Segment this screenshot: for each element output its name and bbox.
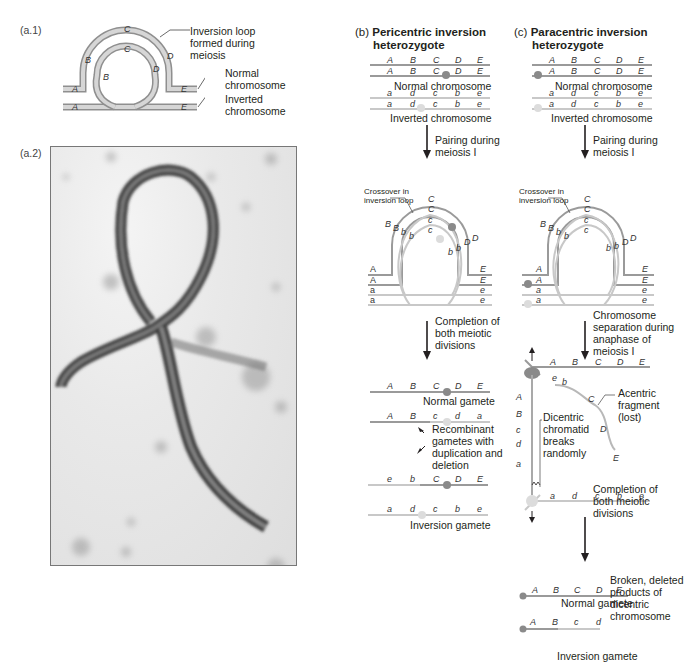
svg-text:D: D: [455, 66, 462, 76]
svg-text:e: e: [552, 373, 557, 383]
panel-b-letter: (b): [355, 26, 369, 38]
svg-text:a: a: [549, 99, 554, 109]
svg-text:E: E: [642, 275, 649, 285]
svg-text:b: b: [616, 99, 621, 109]
svg-text:C: C: [433, 381, 440, 391]
svg-text:e: e: [477, 504, 482, 514]
svg-text:C: C: [433, 66, 440, 76]
svg-text:d: d: [572, 491, 578, 501]
svg-text:A: A: [386, 411, 393, 421]
svg-text:b: b: [606, 243, 611, 253]
svg-text:E: E: [181, 102, 188, 112]
svg-text:d: d: [571, 99, 577, 109]
svg-text:B: B: [548, 223, 554, 233]
panel-b-title-line2: heterozygote: [355, 39, 445, 51]
panel-b-normal-chromosome-caption: Normal chromosome: [394, 80, 491, 92]
normal-chromosome-callout: Normal chromosome: [225, 67, 305, 91]
svg-text:c: c: [574, 617, 579, 627]
svg-text:a: a: [536, 285, 541, 295]
svg-text:e: e: [387, 474, 392, 484]
svg-text:b: b: [410, 474, 415, 484]
panel-b-title: (b) Pericentric inversion heterozygote: [355, 26, 486, 52]
svg-text:a: a: [477, 411, 482, 421]
svg-text:B: B: [552, 617, 558, 627]
svg-text:A: A: [370, 264, 376, 274]
svg-text:b: b: [556, 227, 561, 237]
svg-text:E: E: [480, 264, 487, 274]
svg-text:A: A: [386, 66, 393, 76]
svg-text:A: A: [549, 357, 556, 367]
panel-c-title-line2: heterozygote: [514, 39, 604, 51]
panel-c-title-line1: Paracentric inversion: [531, 26, 648, 38]
svg-text:c: c: [584, 225, 589, 235]
svg-text:C: C: [594, 66, 601, 76]
svg-text:A: A: [548, 55, 555, 65]
svg-text:D: D: [455, 474, 462, 484]
svg-text:e: e: [480, 285, 485, 295]
svg-text:B: B: [571, 55, 577, 65]
svg-text:b: b: [401, 227, 406, 237]
svg-text:d: d: [516, 439, 522, 449]
svg-text:E: E: [477, 66, 484, 76]
svg-text:c: c: [594, 99, 599, 109]
svg-text:a: a: [549, 88, 554, 98]
panel-b-step1: Pairing during meiosis I: [435, 134, 505, 158]
svg-text:C: C: [584, 194, 591, 204]
panel-c-acentric-label: Acentric fragment (lost): [618, 387, 678, 423]
panel-c-normal-chromosome-caption: Normal chromosome: [555, 80, 652, 92]
svg-text:b: b: [456, 243, 461, 253]
panel-b-crossover-label: Crossover in inversion loop: [364, 187, 424, 205]
svg-text:D: D: [153, 64, 160, 74]
svg-text:E: E: [638, 66, 645, 76]
panel-c-dicentric-label: Dicentric chromatid breaks randomly: [543, 411, 605, 459]
panel-c-step3: Completion of both meiotic divisions: [593, 483, 663, 519]
panel-b-step2: Completion of both meiotic divisions: [435, 315, 505, 351]
svg-text:B: B: [540, 219, 546, 229]
svg-text:E: E: [642, 264, 649, 274]
svg-text:d: d: [410, 504, 416, 514]
svg-text:d: d: [410, 99, 416, 109]
svg-text:B: B: [516, 409, 522, 419]
svg-text:E: E: [613, 453, 620, 463]
svg-text:C: C: [124, 25, 131, 34]
svg-text:E: E: [181, 84, 188, 94]
panel-c-step1: Pairing during meiosis I: [593, 134, 663, 158]
panel-c-inverted-chromosome-caption: Inverted chromosome: [551, 112, 653, 124]
svg-text:b: b: [614, 241, 619, 251]
svg-text:c: c: [433, 99, 438, 109]
svg-text:D: D: [622, 237, 629, 247]
svg-text:D: D: [472, 233, 479, 243]
svg-text:B: B: [410, 411, 416, 421]
svg-text:D: D: [617, 357, 624, 367]
svg-text:E: E: [477, 381, 484, 391]
svg-text:D: D: [464, 237, 471, 247]
svg-text:B: B: [553, 585, 559, 595]
svg-text:b: b: [562, 377, 567, 387]
svg-text:E: E: [639, 357, 646, 367]
svg-text:b: b: [448, 247, 453, 257]
svg-text:B: B: [571, 66, 577, 76]
svg-text:c: c: [428, 225, 433, 235]
svg-text:A: A: [71, 84, 78, 94]
svg-text:A: A: [370, 275, 376, 285]
svg-text:A: A: [71, 102, 78, 112]
svg-text:C: C: [588, 394, 595, 404]
svg-text:C: C: [124, 44, 131, 54]
svg-text:a: a: [370, 285, 375, 295]
panel-b-inverted-chromosome-caption: Inverted chromosome: [390, 112, 492, 124]
svg-text:D: D: [616, 66, 623, 76]
panel-c-inversion-gamete-caption: Inversion gamete: [557, 650, 638, 662]
svg-text:d: d: [455, 411, 461, 421]
svg-text:B: B: [385, 219, 391, 229]
svg-text:A: A: [535, 264, 542, 274]
svg-text:D: D: [616, 55, 623, 65]
svg-text:e: e: [642, 295, 647, 305]
panel-c-broken-label: Broken, deleted products of dicentric ch…: [610, 574, 688, 622]
panel-b-normal-gamete-caption: Normal gamete: [423, 395, 495, 407]
svg-text:B: B: [410, 66, 416, 76]
svg-text:B: B: [103, 72, 109, 82]
svg-text:a: a: [370, 295, 375, 305]
svg-text:e: e: [642, 285, 647, 295]
svg-text:b: b: [455, 504, 460, 514]
svg-text:A: A: [386, 381, 393, 391]
